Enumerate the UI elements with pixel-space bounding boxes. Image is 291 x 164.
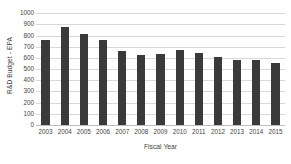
bar-2011 [195,53,203,125]
bar-2012 [214,57,222,125]
y-axis-tick-label: 0 [13,122,34,128]
x-axis-tick-label: 2004 [58,128,72,136]
y-axis-tick-label: 800 [13,32,34,38]
x-axis-title: Fiscal Year [36,143,285,150]
plot-area [36,13,285,125]
y-axis-tick-label: 400 [13,77,34,83]
x-axis-tick-label: 2011 [192,128,206,136]
bar-chart: R&D Budget - EPA 01002003004005006007008… [0,0,291,164]
x-axis-tick-label: 2005 [77,128,91,136]
y-axis-tick-label: 900 [13,21,34,27]
x-axis-tick-label: 2006 [96,128,110,136]
bar-2013 [233,60,241,125]
x-axis-tick-label: 2012 [211,128,225,136]
bars-group [36,13,285,125]
y-axis-tick-label: 600 [13,55,34,61]
y-axis-title-label: R&D Budget - EPA [6,37,13,94]
bar-2014 [252,60,260,125]
x-axis-tick-label: 2008 [134,128,148,136]
x-axis-tick-label: 2014 [249,128,263,136]
bar-2010 [176,50,184,125]
bar-2006 [99,40,107,125]
y-axis-tick-label: 200 [13,100,34,106]
bar-2008 [137,55,145,125]
x-axis-tick-labels: 2003200420052006200720082009201020112012… [36,128,285,140]
y-axis-tick-label: 100 [13,111,34,117]
x-axis-tick-label: 2003 [39,128,53,136]
bar-2015 [271,63,279,125]
y-axis-tick-label: 1000 [13,10,34,16]
bar-2007 [118,51,126,125]
y-axis-tick-labels: 01002003004005006007008009001000 [13,0,34,138]
x-axis-tick-label: 2015 [268,128,282,136]
gridline [36,125,285,126]
x-axis-tick-label: 2009 [153,128,167,136]
bar-2009 [156,54,164,125]
bar-2005 [80,34,88,125]
y-axis-tick-label: 700 [13,44,34,50]
y-axis-tick-label: 500 [13,66,34,72]
x-axis-tick-label: 2013 [230,128,244,136]
bar-2004 [61,27,69,125]
x-axis-tick-label: 2007 [115,128,129,136]
x-axis-tick-label: 2010 [173,128,187,136]
bar-2003 [41,40,49,125]
y-axis-tick-label: 300 [13,88,34,94]
